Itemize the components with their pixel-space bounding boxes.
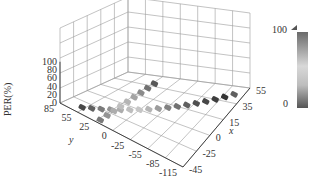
x-axis-title: x (228, 125, 234, 136)
colorbar-min-label: 0 (283, 98, 288, 109)
y-axis-title: y (68, 134, 74, 145)
data-point (97, 105, 106, 113)
tick-label: 100 (42, 56, 57, 67)
chart-3d: 8555250-25-55-85-1155535150-25-450204060… (0, 0, 312, 188)
tick-label: -45 (189, 164, 202, 175)
axis-edges (60, 62, 250, 167)
colorbar (297, 32, 308, 108)
data-point (230, 90, 239, 98)
tick-label: -85 (146, 158, 159, 169)
data-point (173, 103, 182, 111)
tick-label: 25 (79, 121, 89, 132)
data-point (78, 103, 87, 111)
tick-label: 0 (216, 132, 221, 143)
data-point (192, 99, 201, 107)
tick-label: 55 (256, 85, 266, 96)
tick-label: -25 (202, 148, 215, 159)
grid-walls (60, 0, 250, 103)
data-point (201, 98, 210, 106)
z-axis-title: PER(%) (2, 83, 14, 116)
tick-label: 0 (102, 130, 107, 141)
tick-label: -55 (129, 149, 142, 160)
tick-label: 35 (243, 101, 253, 112)
tick-label: -25 (111, 140, 124, 151)
colorbar-max-label: 100 (272, 24, 287, 35)
data-point (143, 84, 152, 92)
data-point (220, 93, 229, 101)
data-point (164, 104, 173, 112)
tick-label: -115 (159, 167, 177, 178)
colorbar-marker-icon (291, 25, 297, 30)
data-point (154, 105, 163, 113)
tick-label: 55 (62, 112, 72, 123)
data-point (150, 80, 159, 88)
data-point (211, 95, 220, 103)
